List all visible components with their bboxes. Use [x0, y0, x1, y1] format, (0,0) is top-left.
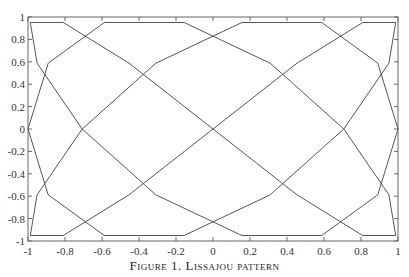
y-tick-label: 0.2: [11, 101, 25, 113]
x-tick-label: -0.2: [167, 245, 184, 257]
y-tick-label: -0.8: [8, 213, 26, 225]
y-tick-label: 1: [20, 11, 26, 23]
y-tick-label: 0.4: [11, 78, 25, 90]
y-tick-label: 0.8: [11, 33, 25, 45]
x-tick-label: -0.4: [130, 245, 148, 257]
x-tick-label: 0: [210, 245, 216, 257]
lissajou-chart: -1-0.8-0.6-0.4-0.200.20.40.60.81 10.80.6…: [0, 0, 409, 258]
x-axis-tick-labels: -1-0.8-0.6-0.4-0.200.20.40.60.81: [23, 245, 400, 257]
y-tick-label: -0.2: [8, 145, 25, 157]
x-tick-label: 0.6: [317, 245, 331, 257]
lissajou-curve: [28, 23, 398, 236]
x-tick-label: -0.6: [93, 245, 111, 257]
y-tick-label: -0.4: [8, 168, 26, 180]
y-axis-tick-labels: 10.80.60.40.20-0.2-0.4-0.6-0.8-1: [8, 11, 26, 247]
figure-caption: Figure 1. Lissajou pattern: [0, 258, 409, 274]
x-tick-label: 0.4: [280, 245, 294, 257]
y-tick-label: -1: [16, 235, 25, 247]
x-tick-label: -0.8: [56, 245, 74, 257]
y-tick-label: 0: [20, 123, 26, 135]
y-tick-label: 0.6: [11, 56, 25, 68]
x-tick-label: 0.2: [243, 245, 257, 257]
x-tick-label: 1: [395, 245, 401, 257]
y-tick-label: -0.6: [8, 190, 26, 202]
x-tick-label: 0.8: [354, 245, 368, 257]
